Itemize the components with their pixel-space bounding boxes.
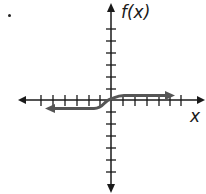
x-axis-label: x [190, 106, 200, 126]
x-axis-left-arrow-icon [18, 96, 26, 104]
graph [0, 0, 206, 194]
curve-left-arrow-icon [45, 104, 55, 113]
y-axis-label: f(x) [121, 2, 150, 22]
y-axis-up-arrow-icon [107, 3, 115, 12]
y-axis-down-arrow-icon [107, 184, 115, 193]
function-curve [52, 96, 168, 109]
x-axis-right-arrow-icon [197, 96, 205, 104]
